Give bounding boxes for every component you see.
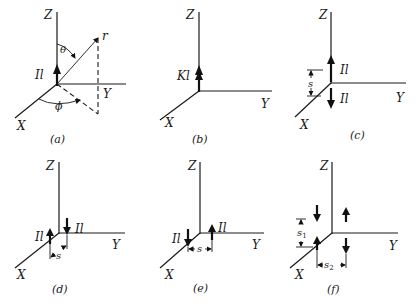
- spacing-dim: [62, 246, 66, 248]
- x-axis-label: X: [16, 268, 26, 282]
- spacing-dim: [51, 254, 55, 257]
- x-axis-label: X: [164, 268, 174, 282]
- spacing-label: s: [308, 78, 313, 89]
- arrow-down-icon: [63, 227, 71, 235]
- y-axis-label: Y: [396, 91, 405, 105]
- x-axis-label: X: [299, 118, 309, 132]
- caption-f: (f): [327, 283, 340, 296]
- arrow-up-icon: [53, 64, 61, 74]
- y-axis-label: Y: [112, 238, 121, 252]
- z-axis-label: Z: [43, 8, 53, 22]
- z-axis-label: Z: [187, 159, 197, 173]
- panel-e: Z Y X Il Il s (e): [160, 159, 264, 295]
- theta-label: θ: [60, 44, 66, 55]
- current-label-left: Il: [171, 232, 181, 246]
- caption-c: (c): [350, 129, 365, 142]
- x-axis: [15, 84, 57, 118]
- spacing-s2-label: s2: [324, 259, 334, 272]
- dipole-figure: Z Y X Il r θ ϕ (a) Z Y X Kl (b): [0, 0, 419, 307]
- current-label: Il: [34, 68, 44, 82]
- arrow-up-icon: [313, 236, 321, 244]
- y-axis-label: Y: [103, 87, 112, 101]
- arrow-up-icon: [342, 207, 350, 215]
- spacing-label: s: [56, 250, 61, 261]
- y-axis-label: Y: [252, 238, 261, 252]
- z-axis-label: Z: [45, 159, 55, 173]
- z-axis-label: Z: [185, 8, 195, 22]
- arrow-down-icon: [313, 214, 321, 222]
- panel-a: Z Y X Il r θ ϕ (a): [15, 8, 126, 146]
- z-axis-label: Z: [318, 8, 328, 22]
- current-label-right: Il: [74, 222, 84, 236]
- current-label: Kl: [176, 69, 190, 83]
- current-label-left: Il: [34, 230, 44, 244]
- panel-c: Z Y X Il Il s (c): [295, 8, 406, 142]
- projection-horizontal: [57, 84, 98, 114]
- x-axis-label: X: [294, 268, 304, 282]
- caption-d: (d): [52, 283, 68, 296]
- current-label-lower: Il: [339, 92, 349, 106]
- caption-a: (a): [50, 133, 65, 146]
- arrow-down-icon: [342, 246, 350, 254]
- arrow-up-icon: [208, 224, 216, 232]
- caption-b: (b): [192, 133, 208, 146]
- z-axis-label: Z: [319, 159, 329, 173]
- panel-b: Z Y X Kl (b): [160, 8, 272, 146]
- panel-f: Z Y X s1 s2 (f): [290, 159, 398, 296]
- caption-e: (e): [193, 282, 208, 295]
- y-axis-label: Y: [261, 97, 270, 111]
- spacing-label: s: [197, 243, 202, 254]
- panel-d: Z Y X Il Il s (d): [15, 159, 125, 296]
- arrow-down-icon: [327, 100, 335, 109]
- current-label-upper: Il: [339, 63, 349, 77]
- arrow-up-icon: [46, 228, 54, 236]
- arrow-up-icon: [327, 55, 335, 64]
- x-axis-label: X: [164, 116, 174, 130]
- radius-label: r: [102, 29, 109, 43]
- spacing-s1-label: s1: [297, 227, 307, 240]
- x-axis-label: X: [16, 119, 26, 133]
- current-label-right: Il: [217, 221, 227, 235]
- phi-label: ϕ: [55, 100, 63, 113]
- y-axis-label: Y: [389, 239, 398, 253]
